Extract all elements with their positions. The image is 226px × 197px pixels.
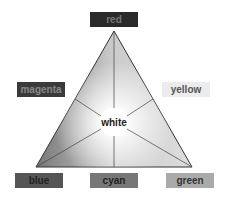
color-triangle [0, 0, 226, 197]
label-green: green [166, 173, 214, 188]
label-magenta: magenta [17, 82, 65, 97]
label-yellow: yellow [162, 82, 210, 97]
label-cyan: cyan [90, 173, 138, 188]
label-blue: blue [15, 173, 63, 188]
label-red: red [90, 12, 138, 27]
label-white: white [96, 115, 132, 130]
